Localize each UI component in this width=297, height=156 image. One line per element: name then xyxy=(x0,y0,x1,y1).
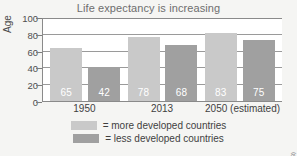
bar-value-label: 68 xyxy=(176,88,188,101)
x-tick-label: 2050 (estimated) xyxy=(205,103,280,114)
bar-more-78[interactable]: 78 xyxy=(128,37,160,101)
legend-swatch-icon xyxy=(73,134,99,143)
x-tick-label: 1950 xyxy=(73,103,95,114)
x-axis-tick-labels: 195020132050 (estimated) xyxy=(42,103,282,117)
y-axis-label: Age xyxy=(2,4,13,44)
bar-less-42[interactable]: 42 xyxy=(88,67,120,101)
legend-swatch-icon xyxy=(71,121,97,130)
x-tick-label: 2013 xyxy=(151,103,173,114)
bar-value-label: 83 xyxy=(215,88,227,101)
legend-label: = less developed countries xyxy=(105,133,224,144)
legend-label: = more developed countries xyxy=(103,120,227,131)
bar-spacer xyxy=(120,19,127,101)
chart-figure: Life expectancy is increasing Age 100806… xyxy=(0,0,297,156)
bar-spacer xyxy=(43,19,50,101)
bar-slot: 78 xyxy=(128,19,160,101)
bar-slot: 65 xyxy=(50,19,82,101)
bar-less-68[interactable]: 68 xyxy=(165,45,197,101)
chart-legend: = more developed countries= less develop… xyxy=(0,120,297,144)
bar-value-label: 42 xyxy=(98,88,110,101)
bar-value-label: 65 xyxy=(61,88,73,101)
y-axis-tick-labels: 100806040200 xyxy=(14,14,38,102)
chart-title: Life expectancy is increasing xyxy=(0,2,297,14)
bar-spacer xyxy=(275,19,282,101)
bar-slot: 75 xyxy=(243,19,275,101)
legend-item[interactable]: = less developed countries xyxy=(73,133,224,144)
bar-less-75[interactable]: 75 xyxy=(243,40,275,102)
bar-group-container: 654278688375 xyxy=(43,19,282,101)
bar-slot: 68 xyxy=(165,19,197,101)
bar-slot: 83 xyxy=(205,19,237,101)
bar-more-83[interactable]: 83 xyxy=(205,33,237,101)
bar-value-label: 75 xyxy=(253,88,265,101)
bar-spacer xyxy=(197,19,204,101)
source-credit: (United Nations, 2013) xyxy=(290,152,296,156)
bar-more-65[interactable]: 65 xyxy=(50,48,82,101)
plot-area: 654278688375 xyxy=(42,18,282,102)
bar-value-label: 78 xyxy=(138,88,150,101)
bar-slot: 42 xyxy=(88,19,120,101)
legend-item[interactable]: = more developed countries xyxy=(71,120,227,131)
